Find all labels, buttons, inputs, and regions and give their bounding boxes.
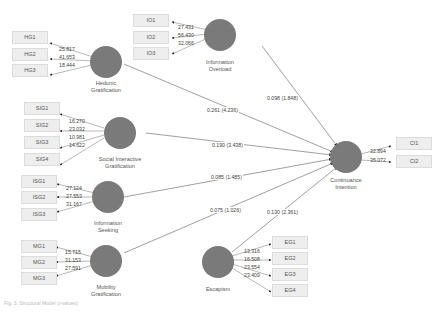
indicator-sig4: SIG4 [24, 153, 60, 166]
loading-hg3: 18.444 [59, 62, 75, 68]
loading-isg1: 27.124 [66, 185, 82, 191]
loading-io3: 32.066 [178, 40, 194, 46]
indicator-ci2: CI2 [396, 155, 432, 168]
loading-eg4: 23.409 [244, 272, 260, 278]
indicator-io3: IO3 [133, 47, 169, 60]
loading-ci1: 32.894 [370, 148, 386, 154]
construct-label-information-overload: InformationOverload [180, 59, 260, 73]
indicator-mg3: MG3 [21, 272, 57, 285]
indicator-eg2: EG2 [272, 252, 308, 265]
construct-escapism [202, 246, 234, 278]
indicator-ci1: CI1 [396, 137, 432, 150]
loading-isg2: 27.553 [66, 193, 82, 199]
indicator-isg3: ISG3 [21, 208, 57, 221]
indicator-sig1: SIG1 [24, 102, 60, 115]
loading-sig4: 14.622 [69, 142, 85, 148]
indicator-io2: IO2 [133, 31, 169, 44]
loading-ci2: 35.072 [370, 157, 386, 163]
loading-eg2: 16.508 [244, 256, 260, 262]
path-mg-ci: 0.075 (1.026) [209, 207, 242, 213]
indicator-hg3: HG3 [12, 64, 48, 77]
loading-eg1: 13.316 [244, 248, 260, 254]
construct-label-continuance-intention: ContinuanceIntention [306, 177, 386, 191]
construct-label-information-seeking: InformationSeeking [68, 220, 148, 234]
loading-isg3: 31.167 [66, 201, 82, 207]
construct-label-mobility: MobilityGratification [66, 284, 146, 298]
indicator-hg1: HG1 [12, 31, 48, 44]
construct-continuance-intention [330, 141, 362, 173]
indicator-sig2: SIG2 [24, 119, 60, 132]
path-sig-ci: 0.190 (3.438) [211, 142, 244, 148]
loading-mg3: 27.591 [65, 265, 81, 271]
loading-io1: 27.431 [178, 24, 194, 30]
construct-information-seeking [92, 181, 124, 213]
loading-mg2: 31.153 [65, 257, 81, 263]
construct-label-escapism: Escapism [178, 286, 258, 293]
construct-label-hedonic: HedonicGratification [66, 80, 146, 94]
path-eg-ci: 0.130 (2.361) [266, 209, 299, 215]
path-hg-ci: 0.261 (4.236) [206, 107, 239, 113]
loading-mg1: 15.715 [65, 249, 81, 255]
indicator-mg2: MG2 [21, 256, 57, 269]
indicator-io1: IO1 [133, 14, 169, 27]
construct-mobility-gratification [90, 245, 122, 277]
loading-hg2: 41.653 [59, 54, 75, 60]
construct-information-overload [204, 19, 236, 51]
loading-sig3: 10.981 [69, 134, 85, 140]
loading-sig1: 16.270 [69, 118, 85, 124]
indicator-hg2: HG2 [12, 48, 48, 61]
path-io-ci: 0.098 (1.848) [266, 95, 299, 101]
figure-caption: Fig. 3. Structural Model (t-values) [4, 300, 78, 306]
loading-eg3: 23.554 [244, 264, 260, 270]
indicator-isg2: ISG2 [21, 191, 57, 204]
construct-social-interactive-gratification [104, 117, 136, 149]
indicator-eg3: EG3 [272, 268, 308, 281]
construct-label-social-interactive: Social InteractiveGratification [80, 156, 160, 170]
indicator-eg4: EG4 [272, 284, 308, 297]
indicator-eg1: EG1 [272, 236, 308, 249]
loading-io2: 56.430 [178, 32, 194, 38]
indicator-sig3: SIG3 [24, 136, 60, 149]
loading-hg1: 25.817 [59, 46, 75, 52]
indicator-mg1: MG1 [21, 240, 57, 253]
path-isg-ci: 0.085 (1.485) [210, 174, 243, 180]
indicator-isg1: ISG1 [21, 175, 57, 188]
construct-hedonic-gratification [90, 46, 122, 78]
loading-sig2: 23.032 [69, 126, 85, 132]
sem-diagram: HG1 HG2 HG3 25.817 41.653 18.444 Hedonic… [0, 0, 444, 312]
